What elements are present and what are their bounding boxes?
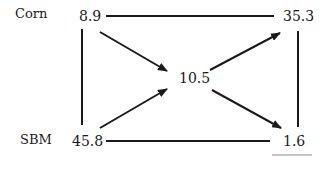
arrow-topleft-center (100, 32, 167, 71)
arrow-center-bottomright (212, 90, 281, 128)
row-label-sbm: SBM (20, 133, 52, 147)
arrow-bottomleft-center (100, 89, 167, 128)
node-top-left: 8.9 (79, 8, 101, 24)
node-center: 10.5 (179, 70, 210, 86)
node-bottom-right: 1.6 (283, 133, 305, 149)
node-top-right: 35.3 (283, 8, 314, 24)
node-bottom-left: 45.8 (72, 133, 103, 149)
row-label-corn: Corn (15, 7, 47, 21)
arrow-center-topright (210, 33, 280, 70)
